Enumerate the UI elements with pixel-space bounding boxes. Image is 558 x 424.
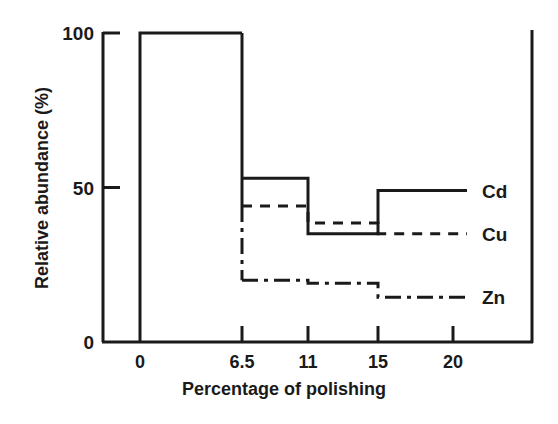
x-tick-label: 15 xyxy=(368,352,388,372)
x-axis-label: Percentage of polishing xyxy=(182,379,386,399)
x-tick-label: 11 xyxy=(298,352,317,372)
x-tick-label: 6.5 xyxy=(229,352,254,372)
initial-step-100 xyxy=(140,33,242,342)
y-tick-label: 100 xyxy=(62,23,94,44)
y-tick-label: 0 xyxy=(83,332,94,353)
x-axis-ticks: 06.5111520 xyxy=(135,326,463,372)
y-tick-label: 50 xyxy=(73,178,94,199)
series-label-cu: Cu xyxy=(482,224,507,245)
series-cu xyxy=(242,206,467,234)
step-chart: 050100 06.5111520 CdCuZn Percentage of p… xyxy=(0,0,558,424)
series-zn xyxy=(242,280,467,297)
x-tick-label: 20 xyxy=(443,352,463,372)
x-tick-label: 0 xyxy=(135,352,145,372)
series-label-zn: Zn xyxy=(482,287,505,308)
y-axis-ticks: 050100 xyxy=(62,23,120,353)
series-label-cd: Cd xyxy=(482,181,507,202)
axes-frame xyxy=(102,30,533,343)
y-axis-label: Relative abundance (%) xyxy=(32,87,52,289)
series-group: CdCuZn xyxy=(140,33,507,342)
series-cd xyxy=(242,178,467,234)
